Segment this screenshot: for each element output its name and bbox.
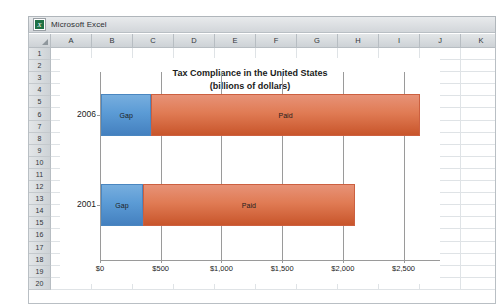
value-axis-line	[100, 260, 440, 261]
row-header-1[interactable]: 1	[29, 48, 51, 60]
grid-cell[interactable]	[461, 229, 495, 240]
grid-cell[interactable]	[461, 169, 495, 180]
grid-cell[interactable]	[461, 84, 495, 95]
column-header-row[interactable]: ABCDEFGHIJK	[29, 34, 495, 48]
column-header-c[interactable]: C	[133, 34, 174, 48]
value-tick-mark	[100, 260, 101, 263]
value-tick-label: $2,000	[331, 264, 354, 273]
plot-area[interactable]: GapPaidGapPaid	[100, 72, 440, 260]
row-header-9[interactable]: 9	[29, 145, 51, 157]
column-header-f[interactable]: F	[256, 34, 297, 48]
grid-cell[interactable]	[461, 217, 495, 228]
grid-cell[interactable]	[461, 108, 495, 119]
chart-object[interactable]: Tax Compliance in the United States (bil…	[60, 58, 440, 284]
value-tick-label: $1,500	[271, 264, 294, 273]
bar-segment-gap-2006[interactable]: Gap	[101, 94, 151, 136]
grid-cell[interactable]	[461, 96, 495, 107]
row-header-15[interactable]: 15	[29, 217, 51, 229]
grid-cell[interactable]	[461, 266, 495, 277]
column-header-i[interactable]: I	[379, 34, 420, 48]
column-header-j[interactable]: J	[420, 34, 461, 48]
row-header-7[interactable]: 7	[29, 121, 51, 133]
grid-cell[interactable]	[461, 48, 495, 59]
row-header-20[interactable]: 20	[29, 278, 51, 290]
select-all-corner[interactable]	[29, 34, 51, 48]
bar-segment-paid-2001[interactable]: Paid	[143, 184, 355, 226]
row-header-17[interactable]: 17	[29, 242, 51, 254]
row-header-10[interactable]: 10	[29, 157, 51, 169]
category-label-2006: 2006	[60, 109, 96, 119]
grid-cell[interactable]	[461, 193, 495, 204]
grid-cell[interactable]	[461, 121, 495, 132]
row-header-5[interactable]: 5	[29, 96, 51, 108]
column-header-k[interactable]: K	[461, 34, 495, 48]
row-header-11[interactable]: 11	[29, 169, 51, 181]
data-label-paid: Paid	[279, 112, 293, 119]
column-header-a[interactable]: A	[51, 34, 92, 48]
row-header-16[interactable]: 16	[29, 229, 51, 241]
row-header-4[interactable]: 4	[29, 84, 51, 96]
value-tick-mark	[161, 260, 162, 263]
row-header-8[interactable]: 8	[29, 133, 51, 145]
window-title: Microsoft Excel	[51, 20, 107, 29]
category-label-2001: 2001	[60, 199, 96, 209]
data-label-paid: Paid	[242, 202, 256, 209]
bar-series-2006[interactable]: GapPaid	[101, 94, 420, 136]
grid-cell[interactable]	[461, 60, 495, 71]
grid-cell[interactable]	[461, 242, 495, 253]
grid-cell[interactable]	[461, 181, 495, 192]
row-header-18[interactable]: 18	[29, 254, 51, 266]
value-tick-label: $500	[152, 264, 169, 273]
value-tick-mark	[404, 260, 405, 263]
row-header-12[interactable]: 12	[29, 181, 51, 193]
value-tick-label: $1,000	[210, 264, 233, 273]
row-header-3[interactable]: 3	[29, 72, 51, 84]
row-header-column[interactable]: 1234567891011121314151617181920	[29, 48, 51, 290]
grid-cell[interactable]	[461, 133, 495, 144]
category-tick	[97, 115, 100, 116]
grid-cell[interactable]	[461, 254, 495, 265]
category-tick	[97, 205, 100, 206]
value-tick-mark	[221, 260, 222, 263]
value-tick-label: $0	[96, 264, 104, 273]
data-label-gap: Gap	[120, 112, 133, 119]
bar-segment-gap-2001[interactable]: Gap	[101, 184, 143, 226]
grid-cell[interactable]	[461, 157, 495, 168]
screenshot-root: X Microsoft Excel ABCDEFGHIJK 1234567891…	[0, 0, 500, 307]
window-title-bar[interactable]: X Microsoft Excel	[28, 16, 496, 33]
bar-series-2001[interactable]: GapPaid	[101, 184, 355, 226]
value-tick-label: $2,500	[392, 264, 415, 273]
svg-text:X: X	[36, 21, 42, 29]
row-header-6[interactable]: 6	[29, 108, 51, 120]
value-tick-mark	[282, 260, 283, 263]
column-header-e[interactable]: E	[215, 34, 256, 48]
column-header-g[interactable]: G	[297, 34, 338, 48]
grid-cell[interactable]	[461, 72, 495, 83]
grid-cell[interactable]	[461, 278, 495, 289]
data-label-gap: Gap	[115, 202, 128, 209]
value-tick-mark	[343, 260, 344, 263]
grid-cell[interactable]	[461, 205, 495, 216]
column-header-b[interactable]: B	[92, 34, 133, 48]
excel-icon: X	[33, 18, 46, 31]
grid-cell[interactable]	[461, 145, 495, 156]
row-header-2[interactable]: 2	[29, 60, 51, 72]
row-header-13[interactable]: 13	[29, 193, 51, 205]
bar-segment-paid-2006[interactable]: Paid	[151, 94, 419, 136]
column-header-d[interactable]: D	[174, 34, 215, 48]
row-header-19[interactable]: 19	[29, 266, 51, 278]
row-header-14[interactable]: 14	[29, 205, 51, 217]
column-header-h[interactable]: H	[338, 34, 379, 48]
